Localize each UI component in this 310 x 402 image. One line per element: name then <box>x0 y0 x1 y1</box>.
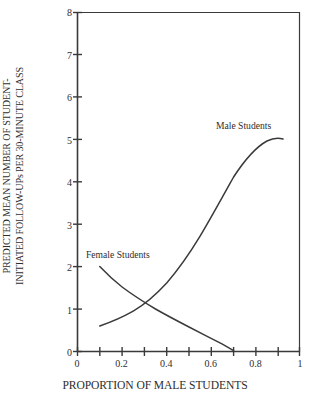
chart-figure: PREDICTED MEAN NUMBER OF STUDENT- INITIA… <box>0 0 310 402</box>
series-curve-female-students <box>100 267 234 351</box>
plot-area <box>0 0 310 402</box>
series-curve-male-students <box>100 138 283 326</box>
axis-frame <box>77 12 300 352</box>
